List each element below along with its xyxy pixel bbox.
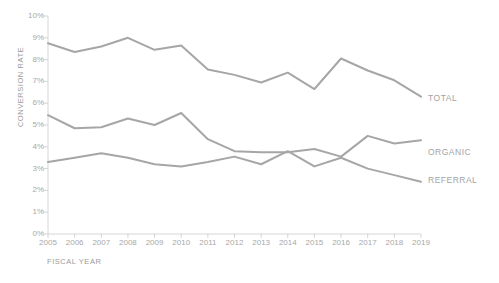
series-label-organic: ORGANIC xyxy=(428,147,471,157)
x-tick-label: 2016 xyxy=(332,238,350,248)
series-lines-group xyxy=(48,38,421,182)
x-tick-label: 2005 xyxy=(39,238,57,248)
x-tick-label: 2014 xyxy=(279,238,297,248)
x-tick-label: 2013 xyxy=(252,238,270,248)
x-tick-label: 2012 xyxy=(226,238,244,248)
series-label-referral: REFERRAL xyxy=(428,175,477,185)
x-tick-label: 2010 xyxy=(172,238,190,248)
y-axis-tick-marks xyxy=(44,16,48,234)
series-line-referral xyxy=(48,151,421,182)
x-tick-label: 2017 xyxy=(359,238,377,248)
x-tick-label: 2011 xyxy=(199,238,216,248)
x-tick-label: 2008 xyxy=(119,238,137,248)
series-line-total xyxy=(48,38,421,97)
x-axis-title: FISCAL YEAR xyxy=(47,257,101,266)
x-tick-label: 2015 xyxy=(306,238,324,248)
x-tick-label: 2007 xyxy=(92,238,110,248)
series-line-organic xyxy=(48,113,421,157)
x-tick-label: 2018 xyxy=(385,238,403,248)
x-tick-label: 2019 xyxy=(412,238,430,248)
x-tick-label: 2006 xyxy=(66,238,84,248)
conversion-rate-line-chart: CONVERSION RATE 10% 9% 8% 7% 6% 5% 4% 3%… xyxy=(0,0,499,283)
x-tick-label: 2009 xyxy=(146,238,164,248)
series-label-total: TOTAL xyxy=(428,93,457,103)
